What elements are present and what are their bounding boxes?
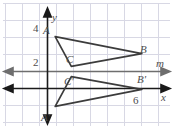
point-label-a-prime: A' (41, 112, 50, 123)
point-label-b-prime: B' (137, 74, 146, 85)
x-tick-label-6: 6 (133, 95, 139, 106)
point-label-a: A (43, 25, 50, 36)
mirror-line-label-m: m (156, 58, 164, 69)
coordinate-plane-figure: y x m 4 2 6 A B C A' B' C' (0, 0, 174, 129)
y-tick-label-2: 2 (33, 57, 39, 68)
figure-canvas (0, 0, 174, 129)
y-tick-label-4: 4 (33, 23, 39, 34)
y-axis-label: y (52, 12, 57, 23)
point-label-c-prime: C' (64, 76, 74, 87)
grid-lines (3, 4, 170, 127)
x-axis-label: x (161, 92, 166, 103)
point-label-b: B (140, 44, 147, 55)
x-axis (4, 85, 170, 92)
point-label-c: C (66, 54, 73, 65)
